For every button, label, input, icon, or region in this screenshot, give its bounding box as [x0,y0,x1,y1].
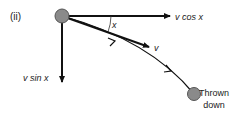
angle-label: x [111,20,117,30]
projectile-diagram: (ii) v cos x v sin x v x Thrown down [0,0,239,116]
ball-start-icon [55,9,69,23]
trajectory-curve [62,16,194,94]
velocity-arrow [62,16,149,47]
caption-line-2: down [203,100,225,110]
velocity-label: v [154,43,159,53]
horizontal-component-label: v cos x [175,12,204,22]
vertical-component-label: v sin x [23,73,49,83]
angle-arc [108,16,111,32]
trajectory-direction-icon [108,38,115,46]
caption-line-1: Thrown [199,88,229,98]
part-label: (ii) [10,11,21,22]
